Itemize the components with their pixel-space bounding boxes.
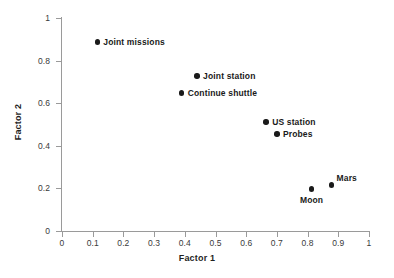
- y-tick-mark: [56, 61, 61, 62]
- x-tick-mark: [338, 232, 339, 237]
- data-point-label: Continue shuttle: [188, 89, 257, 98]
- y-tick-label: 1: [10, 14, 50, 23]
- x-tick-label: 1: [349, 239, 389, 248]
- y-tick-label: 0: [10, 227, 50, 236]
- x-tick-mark: [308, 232, 309, 237]
- data-point[interactable]: [263, 119, 269, 125]
- y-tick-label: 0.8: [10, 57, 50, 66]
- x-tick-mark: [93, 232, 94, 237]
- x-tick-mark: [123, 232, 124, 237]
- data-point-label: Joint missions: [103, 38, 165, 47]
- x-tick-mark: [185, 232, 186, 237]
- data-point-label: Moon: [300, 196, 323, 205]
- scatter-chart: 00.20.40.60.81 00.10.20.30.40.50.60.70.8…: [0, 0, 394, 278]
- data-point-label: Joint station: [203, 72, 255, 81]
- data-point-label: Mars: [337, 174, 357, 183]
- y-tick-mark: [56, 146, 61, 147]
- x-tick-mark: [246, 232, 247, 237]
- x-tick-mark: [277, 232, 278, 237]
- x-tick-mark: [62, 232, 63, 237]
- y-tick-mark: [56, 18, 61, 19]
- x-axis-title: Factor 1: [0, 253, 394, 263]
- x-tick-mark: [369, 232, 370, 237]
- y-tick-mark: [56, 188, 61, 189]
- data-point[interactable]: [329, 182, 335, 188]
- data-point[interactable]: [309, 186, 315, 192]
- y-tick-label: 0.2: [10, 184, 50, 193]
- x-tick-mark: [216, 232, 217, 237]
- data-point[interactable]: [95, 39, 101, 45]
- data-point[interactable]: [274, 131, 280, 137]
- x-tick-mark: [154, 232, 155, 237]
- y-tick-mark: [56, 231, 61, 232]
- y-tick-mark: [56, 103, 61, 104]
- data-point-label: US station: [272, 118, 316, 127]
- y-axis-title: Factor 2: [13, 82, 23, 162]
- data-point[interactable]: [194, 73, 200, 79]
- data-point-label: Probes: [283, 130, 313, 139]
